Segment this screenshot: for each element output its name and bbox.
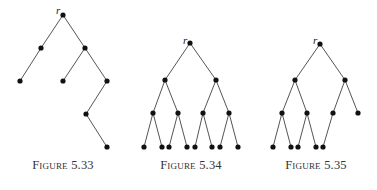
tree-edge <box>203 113 212 147</box>
tree-edge <box>220 113 229 147</box>
tree-node <box>209 144 214 149</box>
tree-node <box>295 144 300 149</box>
tree-edge <box>85 48 107 81</box>
tree-edge <box>282 80 295 113</box>
tree-figure-1: r <box>17 4 109 150</box>
tree-edge <box>190 43 216 80</box>
caption-figure-5-33: Figure 5.33 <box>32 158 94 173</box>
tree-node <box>166 144 171 149</box>
tree-edge <box>41 15 63 48</box>
root-node <box>317 41 322 46</box>
tree-node <box>192 144 197 149</box>
tree-node <box>320 144 325 149</box>
tree-node <box>200 110 205 115</box>
tree-edge <box>229 113 238 147</box>
tree-node <box>38 45 43 50</box>
tree-edge <box>165 43 190 80</box>
tree-edge <box>298 113 307 147</box>
tree-node <box>150 110 155 115</box>
tree-edge <box>86 81 107 114</box>
root-label: r <box>183 34 188 46</box>
tree-edge <box>86 114 107 147</box>
caption-figure-5-35: Figure 5.35 <box>285 158 347 173</box>
tree-node <box>141 144 146 149</box>
tree-edge <box>203 80 216 113</box>
tree-edge <box>320 44 345 80</box>
tree-node <box>342 77 347 82</box>
tree-edge <box>165 80 178 113</box>
tree-node <box>175 110 180 115</box>
root-node <box>187 40 192 45</box>
tree-edge <box>195 113 203 147</box>
tree-node <box>82 45 87 50</box>
tree-node <box>17 78 22 83</box>
tree-edge <box>345 80 358 113</box>
tree-edge <box>144 113 153 147</box>
tree-figure-3: r <box>270 34 360 150</box>
tree-edge <box>169 113 178 147</box>
tree-edge <box>178 113 187 147</box>
tree-edge <box>20 48 41 81</box>
tree-node <box>60 78 65 83</box>
tree-edge <box>323 113 333 147</box>
tree-node <box>235 144 240 149</box>
tree-edge <box>63 15 85 48</box>
tree-node <box>270 144 275 149</box>
root-label: r <box>313 34 318 46</box>
root-label: r <box>56 4 61 16</box>
tree-node <box>104 78 109 83</box>
tree-node <box>83 111 88 116</box>
tree-node <box>279 110 284 115</box>
tree-node <box>292 77 297 82</box>
tree-node <box>304 110 309 115</box>
tree-edge <box>216 80 229 113</box>
tree-edge <box>273 113 282 147</box>
tree-node <box>217 144 222 149</box>
tree-node <box>213 77 218 82</box>
tree-node <box>184 144 189 149</box>
tree-node <box>159 144 164 149</box>
caption-figure-5-34: Figure 5.34 <box>160 158 222 173</box>
tree-edge <box>63 48 85 81</box>
tree-edge <box>153 80 165 113</box>
tree-node <box>355 110 360 115</box>
tree-edge <box>295 80 307 113</box>
tree-node <box>313 144 318 149</box>
tree-edge <box>295 44 320 80</box>
tree-edge <box>333 80 345 113</box>
tree-node <box>162 77 167 82</box>
tree-node <box>104 144 109 149</box>
tree-node <box>330 110 335 115</box>
tree-node <box>226 110 231 115</box>
tree-node <box>288 144 293 149</box>
tree-edge <box>307 113 316 147</box>
tree-edge <box>282 113 291 147</box>
tree-edge <box>153 113 162 147</box>
root-node <box>60 12 65 17</box>
tree-figure-2: r <box>141 34 240 150</box>
